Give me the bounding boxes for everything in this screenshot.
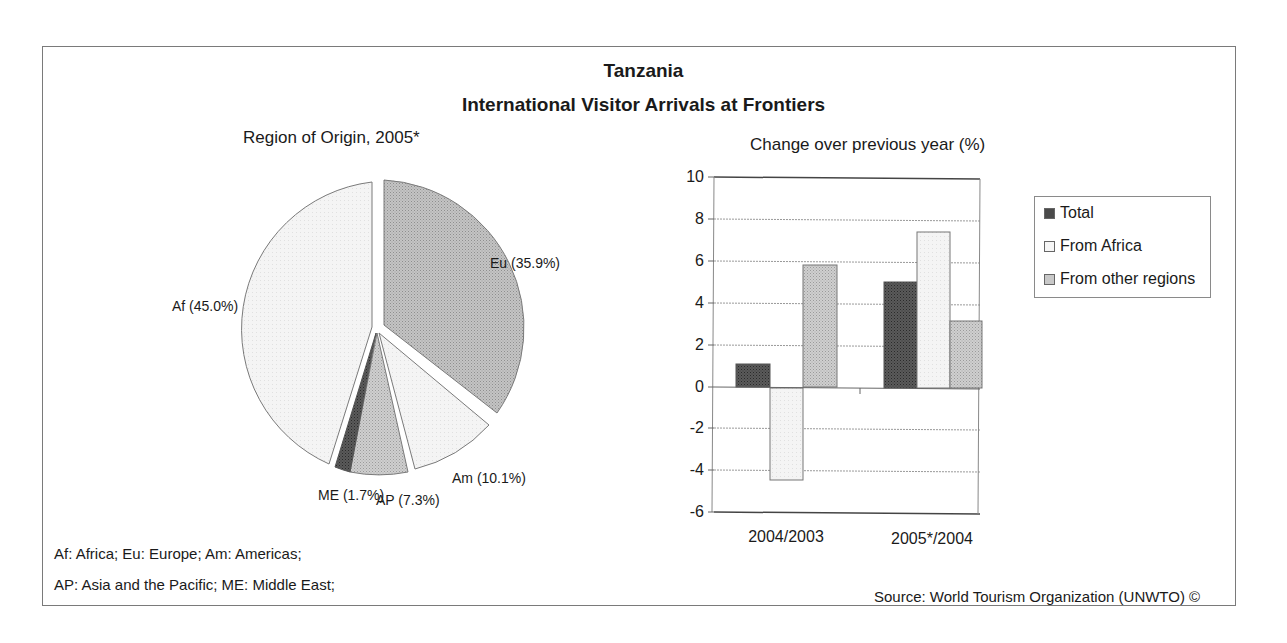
x-category-2005-2004: 2005*/2004 [862,530,1002,548]
pie-chart [242,180,524,475]
bar-chart [708,177,982,514]
legend-item-total: Total [1044,204,1094,222]
pie-label-am: Am (10.1%) [452,470,526,486]
y-tick-10: 10 [674,168,704,186]
abbreviation-note-2: AP: Asia and the Pacific; ME: Middle Eas… [54,576,335,593]
bar-2004-other [803,265,837,387]
pie-label-me: ME (1.7%) [318,487,384,503]
legend-swatch-from-other-regions [1044,274,1055,285]
x-category-2004-2003: 2004/2003 [716,528,856,546]
y-tick-neg4: -4 [674,461,704,479]
legend-item-from-other-regions: From other regions [1044,270,1195,288]
legend-label-from-africa: From Africa [1060,237,1142,255]
legend-swatch-from-africa [1044,241,1055,252]
bar-title: Change over previous year (%) [750,135,985,155]
bar-2005-africa [917,232,950,388]
bar-2005-other [950,321,982,388]
abbreviation-note-1: Af: Africa; Eu: Europe; Am: Americas; [54,545,302,562]
legend-label-from-other-regions: From other regions [1060,270,1195,288]
bar-2005-total [884,282,917,388]
y-tick-neg6: -6 [674,503,704,521]
pie-label-ap: AP (7.3%) [376,492,440,508]
legend-swatch-total [1044,208,1055,219]
bar-2004-africa [770,388,803,480]
legend-label-total: Total [1060,204,1094,222]
source-note: Source: World Tourism Organization (UNWT… [874,588,1200,605]
y-tick-0: 0 [674,378,704,396]
y-tick-8: 8 [674,210,704,228]
pie-label-af: Af (45.0%) [172,298,238,314]
y-tick-6: 6 [674,252,704,270]
bar-2004-total [736,364,770,387]
y-tick-neg2: -2 [674,419,704,437]
y-tick-4: 4 [674,294,704,312]
legend-item-from-africa: From Africa [1044,237,1142,255]
pie-label-eu: Eu (35.9%) [490,255,560,271]
bar-legend: Total From Africa From other regions [1034,196,1211,298]
y-tick-2: 2 [674,336,704,354]
